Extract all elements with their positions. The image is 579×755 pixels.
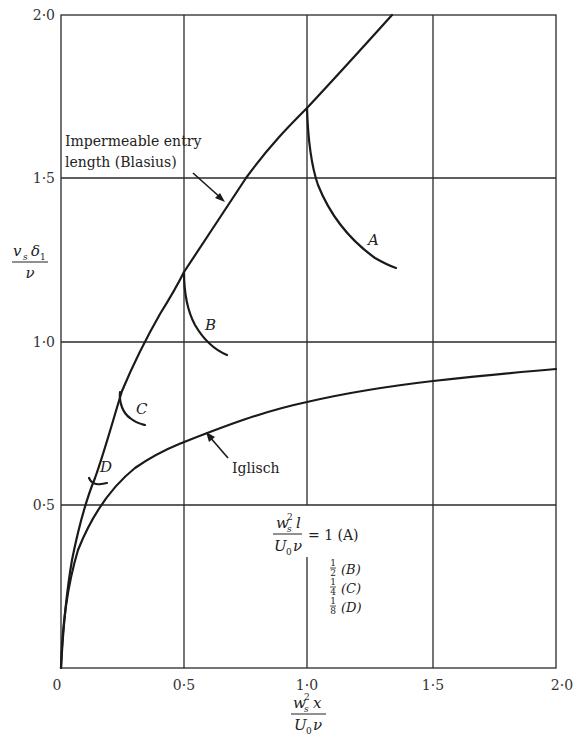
label-a: A [366, 231, 379, 249]
x-tick-0: 0 [53, 677, 62, 693]
x-label-nu: ν [313, 716, 322, 734]
curve-d [89, 478, 107, 484]
iglisch-label: Iglisch [232, 460, 280, 476]
legend-c: (C) [341, 581, 361, 596]
chart-canvas: 2·0 1·5 1·0 0·5 0 0·5 1·0 1·5 2·0 v s δ … [0, 0, 579, 755]
legend-l: l [296, 514, 301, 532]
legend-nu: ν [293, 537, 302, 555]
label-b: B [204, 316, 216, 334]
y-axis-label: v s δ 1 ν [12, 242, 48, 282]
label-c: C [136, 400, 148, 418]
x-label-0: 0 [306, 726, 312, 736]
x-label-sub: s [304, 704, 309, 714]
legend-d-den: 8 [330, 606, 336, 616]
y-label-v: v [13, 242, 22, 260]
grid [61, 15, 556, 668]
curve-a [307, 108, 396, 268]
blasius-arrow [193, 173, 222, 199]
y-tick-0-5: 0·5 [33, 497, 55, 513]
legend-c-num: 1 [330, 577, 336, 587]
blasius-label-line2: length (Blasius) [65, 154, 177, 170]
y-tick-1-5: 1·5 [33, 170, 55, 186]
label-d: D [99, 458, 112, 476]
x-tick-2-0: 2·0 [551, 677, 573, 693]
y-label-nu: ν [25, 264, 34, 282]
blasius-label-line1: Impermeable entry [65, 133, 201, 149]
y-tick-1-0: 1·0 [33, 334, 55, 350]
x-tick-1-5: 1·5 [422, 677, 444, 693]
legend-sup: 2 [287, 512, 293, 522]
legend-b-num: 1 [330, 558, 336, 568]
y-label-s: s [23, 252, 28, 262]
x-label-x: x [313, 694, 322, 712]
legend-0: 0 [286, 547, 292, 557]
legend-d-num: 1 [330, 596, 336, 606]
legend-d: (D) [341, 600, 362, 615]
x-tick-1-0: 1·0 [296, 677, 318, 693]
legend-b: (B) [341, 562, 361, 577]
x-axis-label: w 2 s x U 0 ν [291, 692, 326, 736]
y-label-delta: δ [31, 242, 40, 260]
y-label-1: 1 [40, 252, 46, 262]
parameter-legend: w 2 s l U 0 ν = 1 (A) 1 2 (B) 1 4 (C) 1 … [268, 508, 362, 616]
x-label-sup: 2 [304, 692, 310, 702]
legend-sub: s [287, 524, 292, 534]
legend-eq-a: = 1 (A) [308, 527, 359, 543]
y-tick-2-0: 2·0 [33, 7, 55, 23]
x-tick-0-5: 0·5 [173, 677, 195, 693]
